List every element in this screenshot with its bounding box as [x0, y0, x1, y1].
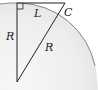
geometry-figure: L C R R	[0, 0, 98, 90]
label-R-vertical: R	[5, 30, 14, 43]
label-R-hypotenuse: R	[44, 41, 53, 54]
label-C: C	[64, 6, 73, 19]
diagram-canvas: L C R R	[0, 0, 98, 90]
label-L: L	[33, 7, 41, 20]
